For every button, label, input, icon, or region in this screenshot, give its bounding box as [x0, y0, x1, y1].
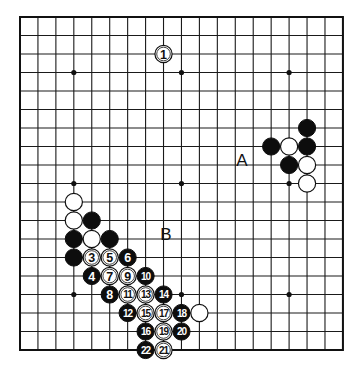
- white-stone-icon: [298, 175, 315, 192]
- move-number: 15: [141, 308, 152, 319]
- black-stone-icon: [101, 230, 118, 247]
- black-stone: [65, 230, 82, 247]
- white-stone: [298, 175, 315, 192]
- black-stone-icon: [65, 230, 82, 247]
- white-stone-icon: [191, 304, 208, 321]
- white-stone: [281, 138, 298, 155]
- move-number: 5: [106, 251, 113, 265]
- move-number: 3: [88, 251, 95, 265]
- white-stone: [298, 156, 315, 173]
- black-stone: [101, 230, 118, 247]
- move-number: 18: [177, 308, 188, 319]
- black-stone-icon: [298, 138, 315, 155]
- white-stone: 13: [137, 286, 154, 303]
- black-stone-icon: [83, 212, 100, 229]
- black-stone: 4: [83, 267, 100, 284]
- black-stone-icon: [263, 138, 280, 155]
- black-stone: 6: [119, 249, 136, 266]
- black-stone-icon: [65, 249, 82, 266]
- white-stone-icon: [298, 156, 315, 173]
- white-stone: 1: [155, 45, 172, 62]
- move-number: 19: [159, 326, 170, 337]
- black-stone: [83, 212, 100, 229]
- black-stone-icon: [281, 156, 298, 173]
- move-number: 1: [160, 48, 167, 62]
- star-point-icon: [71, 181, 76, 186]
- white-stone-icon: [65, 212, 82, 229]
- white-stone-icon: [83, 230, 100, 247]
- white-stone: 21: [155, 341, 172, 358]
- white-stone: 11: [119, 286, 136, 303]
- black-stone: 10: [137, 267, 154, 284]
- black-stone: [298, 119, 315, 136]
- star-point-icon: [287, 292, 292, 297]
- move-number: 14: [159, 289, 170, 300]
- move-number: 4: [88, 270, 95, 284]
- white-stone: 5: [101, 249, 118, 266]
- white-stone: 17: [155, 304, 172, 321]
- black-stone: 20: [173, 323, 190, 340]
- star-point-icon: [287, 70, 292, 75]
- black-stone: [298, 138, 315, 155]
- position-label-a: A: [236, 151, 248, 170]
- move-number: 10: [141, 271, 152, 282]
- black-stone: 22: [137, 341, 154, 358]
- move-number: 11: [123, 289, 133, 300]
- white-stone: [65, 193, 82, 210]
- black-stone: 12: [119, 304, 136, 321]
- move-number: 21: [159, 345, 170, 356]
- star-point-icon: [71, 70, 76, 75]
- black-stone: 14: [155, 286, 172, 303]
- go-board-diagram: 1356479108111314121517181619202221 AB: [0, 0, 363, 377]
- move-number: 17: [159, 308, 170, 319]
- move-number: 13: [141, 289, 152, 300]
- white-stone-icon: [65, 193, 82, 210]
- black-stone: 16: [137, 323, 154, 340]
- white-stone: 15: [137, 304, 154, 321]
- white-stone: 19: [155, 323, 172, 340]
- move-number: 12: [123, 308, 134, 319]
- white-stone-icon: [281, 138, 298, 155]
- white-stone: [65, 212, 82, 229]
- black-stone: 8: [101, 286, 118, 303]
- star-point-icon: [179, 181, 184, 186]
- star-point-icon: [287, 181, 292, 186]
- move-number: 8: [106, 288, 113, 302]
- black-stone: [263, 138, 280, 155]
- black-stone: [65, 249, 82, 266]
- white-stone: 7: [101, 267, 118, 284]
- move-number: 16: [141, 326, 152, 337]
- position-label-b: B: [160, 225, 171, 244]
- white-stone: [83, 230, 100, 247]
- move-number: 22: [141, 345, 152, 356]
- move-number: 9: [124, 270, 131, 284]
- move-number: 20: [177, 326, 188, 337]
- star-point-icon: [179, 70, 184, 75]
- star-point-icon: [71, 292, 76, 297]
- black-stone: 18: [173, 304, 190, 321]
- white-stone: 3: [83, 249, 100, 266]
- move-number: 7: [106, 270, 113, 284]
- star-point-icon: [179, 292, 184, 297]
- white-stone: 9: [119, 267, 136, 284]
- move-number: 6: [124, 251, 131, 265]
- black-stone: [281, 156, 298, 173]
- white-stone: [191, 304, 208, 321]
- black-stone-icon: [298, 119, 315, 136]
- go-board: 1356479108111314121517181619202221 AB: [0, 0, 363, 377]
